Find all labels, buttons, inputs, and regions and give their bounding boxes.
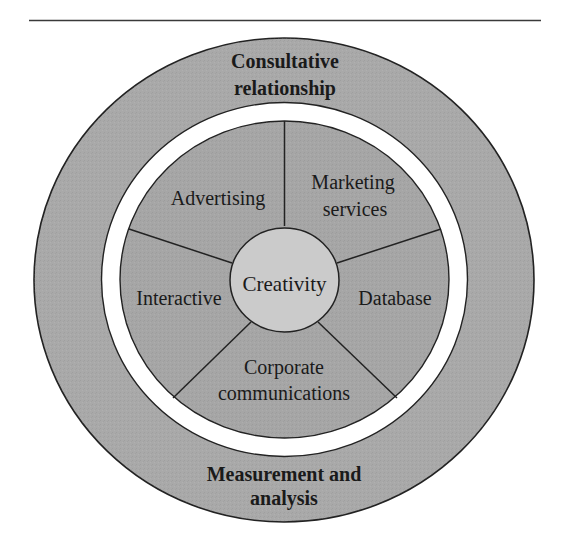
segment-label-marketing-services-line-1: Marketing xyxy=(311,171,394,194)
segment-label-advertising: Advertising xyxy=(171,187,265,210)
segment-label-corporate-communications-line-2: communications xyxy=(218,382,350,404)
agency-services-wheel-diagram: Consultative relationship Measurement an… xyxy=(0,0,561,542)
segment-label-marketing-services-line-2: services xyxy=(323,198,388,220)
outer-top-label-line-1: Consultative xyxy=(231,50,339,72)
outer-top-label-line-2: relationship xyxy=(234,77,336,100)
center-label-creativity: Creativity xyxy=(243,272,327,296)
segment-label-corporate-communications-line-1: Corporate xyxy=(244,356,324,379)
outer-bottom-label-line-2: analysis xyxy=(250,487,318,510)
segment-label-database: Database xyxy=(358,287,431,309)
segment-label-interactive: Interactive xyxy=(136,287,222,309)
outer-bottom-label-line-1: Measurement and xyxy=(207,463,362,485)
